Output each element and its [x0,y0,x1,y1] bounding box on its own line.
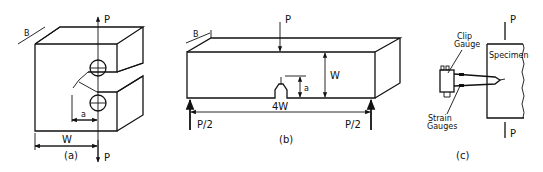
strain-label-2: Gauges [427,122,457,131]
clip-label-2: Gauge [454,40,480,49]
width-label: W [62,134,72,145]
load-p-top-label: P [104,14,110,25]
three-point-bend-specimen: B P W a 4W P/2 P/2 (b) [186,14,400,145]
clip-gauge-setup: Specimen P P Clip Gauge Strain Gauges (c… [427,14,528,161]
load-p-bottom-label-c: P [510,128,516,139]
load-p-top-label-c: P [510,14,516,25]
caption-c: (c) [456,150,469,161]
thickness-label: B [24,29,30,38]
load-p-bottom-label: P [104,152,110,163]
support-right-label: P/2 [345,119,361,130]
caption-a: (a) [64,150,78,161]
support-left-label: P/2 [197,119,213,130]
height-label-b: W [330,70,340,81]
compact-tension-specimen: B P P a W (a) [18,14,143,163]
clip-gauge-body [440,70,454,92]
thickness-label-b: B [193,30,199,39]
crack-length-label-b: a [304,84,309,93]
fracture-specimens-diagram: B P P a W (a) B P [0,0,543,172]
crack-length-label: a [81,110,86,119]
span-label: 4W [272,101,288,112]
load-p-label-b: P [285,14,291,25]
specimen-label: Specimen [489,51,528,60]
caption-b: (b) [279,134,293,145]
